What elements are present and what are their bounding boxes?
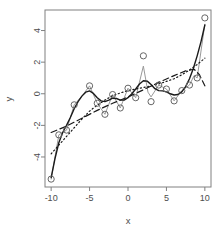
chart-figure: -10-50510 -4-2024 x y [0,0,223,233]
y-tick-label: 4 [32,28,42,33]
x-tick-label: 10 [200,193,210,203]
x-axis-ticks [51,187,205,191]
x-tick-label: -5 [86,193,94,203]
scatter-plot-canvas: -10-50510 -4-2024 x y [0,0,223,233]
y-tick-label: 0 [32,91,42,96]
x-tick-label: 0 [125,193,130,203]
x-tick-label: 5 [164,193,169,203]
y-axis-title: y [3,96,14,101]
data-point [140,53,146,59]
y-tick-label: 2 [32,60,42,65]
curve-linear-fit-black-dashed [51,69,205,132]
x-axis-title: x [126,215,131,226]
data-point [148,99,154,105]
y-axis-tick-labels: -4-2024 [32,28,42,161]
x-axis-tick-labels: -10-50510 [45,193,210,203]
x-tick-label: -10 [45,193,58,203]
y-tick-label: -2 [32,121,42,129]
data-point [202,15,208,21]
y-tick-label: -4 [32,153,42,161]
